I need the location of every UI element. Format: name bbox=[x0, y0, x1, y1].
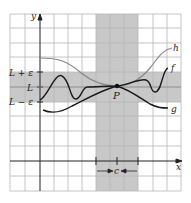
label-x-axis: x bbox=[176, 162, 181, 172]
label-h: h bbox=[173, 43, 179, 53]
label-y-axis: y bbox=[30, 11, 37, 21]
squeeze-theorem-figure: y x L + ε L L − ε P c h f g bbox=[0, 0, 191, 203]
label-L-minus-eps: L − ε bbox=[8, 97, 33, 107]
label-c: c bbox=[114, 166, 119, 176]
label-P: P bbox=[112, 90, 120, 101]
point-P bbox=[115, 84, 119, 88]
label-L-plus-eps: L + ε bbox=[8, 68, 33, 78]
y-axis-arrow-icon bbox=[38, 14, 42, 20]
label-g: g bbox=[171, 104, 177, 114]
label-L: L bbox=[26, 83, 33, 93]
diagram-canvas: y x L + ε L L − ε P c h f g bbox=[0, 0, 191, 203]
label-f: f bbox=[170, 63, 176, 73]
